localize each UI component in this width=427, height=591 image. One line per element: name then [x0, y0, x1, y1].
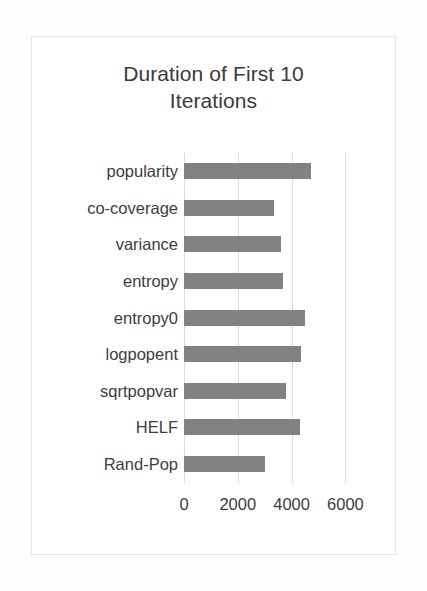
bar-sqrtpopvar: [184, 383, 286, 399]
bar-popularity: [184, 163, 311, 179]
bar-row: co-coverage: [32, 190, 397, 227]
x-tick-label-0: 0: [179, 495, 188, 514]
category-label-entropy0: entropy0: [114, 308, 178, 327]
bar-series: popularityco-coveragevarianceentropyentr…: [32, 153, 397, 483]
bar-logpopent: [184, 346, 301, 362]
category-label-rand-pop: Rand-Pop: [104, 455, 178, 474]
bar-row: Rand-Pop: [32, 446, 397, 483]
chart-screenshot: Duration of First 10 Iterations populari…: [0, 0, 427, 591]
category-label-variance: variance: [116, 235, 178, 254]
bar-row: variance: [32, 226, 397, 263]
bar-row: popularity: [32, 153, 397, 190]
x-axis-tick-labels: 0200040006000: [32, 489, 397, 529]
category-label-logpopent: logpopent: [106, 345, 179, 364]
x-tick-label-4000: 4000: [273, 495, 310, 514]
chart-title-line-1: Duration of First 10: [54, 61, 373, 88]
category-label-popularity: popularity: [106, 162, 178, 181]
plot-area: popularityco-coveragevarianceentropyentr…: [32, 153, 397, 483]
bar-row: HELF: [32, 409, 397, 446]
bar-helf: [184, 419, 300, 435]
bar-entropy0: [184, 310, 305, 326]
bar-variance: [184, 236, 281, 252]
chart-title-line-2: Iterations: [54, 88, 373, 115]
bar-row: sqrtpopvar: [32, 373, 397, 410]
bar-rand-pop: [184, 456, 265, 472]
bar-co-coverage: [184, 200, 274, 216]
bar-row: entropy: [32, 263, 397, 300]
category-label-co-coverage: co-coverage: [87, 198, 178, 217]
bar-row: logpopent: [32, 336, 397, 373]
bar-entropy: [184, 273, 283, 289]
bar-row: entropy0: [32, 299, 397, 336]
x-tick-label-2000: 2000: [219, 495, 256, 514]
category-label-entropy: entropy: [123, 272, 178, 291]
chart-frame: Duration of First 10 Iterations populari…: [31, 36, 396, 555]
chart-title: Duration of First 10 Iterations: [32, 61, 395, 115]
x-tick-label-6000: 6000: [327, 495, 364, 514]
category-label-sqrtpopvar: sqrtpopvar: [100, 381, 178, 400]
category-label-helf: HELF: [136, 418, 178, 437]
